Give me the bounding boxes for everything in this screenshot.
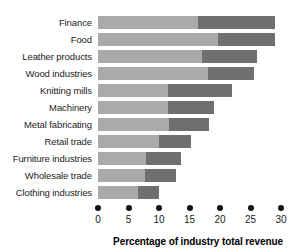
tick-dot-icon	[95, 205, 101, 211]
x-axis-tick: 30	[268, 205, 294, 225]
stacked-bar	[98, 67, 254, 80]
bar-segment-1	[98, 101, 168, 114]
stacked-bar-chart: FinanceFoodLeather productsWood industri…	[0, 0, 306, 252]
tick-label: 5	[116, 214, 142, 225]
category-label: Wood industries	[0, 68, 92, 79]
chart-plot-area: FinanceFoodLeather productsWood industri…	[0, 14, 306, 201]
bar-segment-2	[145, 169, 176, 182]
chart-row: Metal fabricating	[0, 116, 306, 133]
bar-segment-1	[98, 152, 146, 165]
bar-segment-1	[98, 33, 218, 46]
category-label: Knitting mills	[0, 85, 92, 96]
tick-dot-icon	[187, 205, 193, 211]
category-label: Food	[0, 34, 92, 45]
category-label: Furniture industries	[0, 153, 92, 164]
bar-segment-1	[98, 50, 202, 63]
stacked-bar	[98, 33, 275, 46]
bar-segment-2	[138, 186, 159, 199]
bar-segment-1	[98, 16, 198, 29]
category-label: Retail trade	[0, 136, 92, 147]
tick-label: 30	[268, 214, 294, 225]
bar-segment-1	[98, 118, 169, 131]
tick-dot-icon	[278, 205, 284, 211]
x-axis-tick: 15	[177, 205, 203, 225]
bar-segment-1	[98, 67, 208, 80]
chart-row: Finance	[0, 14, 306, 31]
category-label: Clothing industries	[0, 187, 92, 198]
tick-label: 0	[85, 214, 111, 225]
x-axis-tick: 20	[207, 205, 233, 225]
tick-label: 10	[146, 214, 172, 225]
stacked-bar	[98, 135, 191, 148]
stacked-bar	[98, 16, 275, 29]
category-label: Metal fabricating	[0, 119, 92, 130]
category-label: Leather products	[0, 51, 92, 62]
stacked-bar	[98, 152, 181, 165]
category-label: Wholesale trade	[0, 170, 92, 181]
stacked-bar	[98, 169, 176, 182]
bar-segment-2	[169, 118, 209, 131]
x-axis-tick: 0	[85, 205, 111, 225]
tick-label: 15	[177, 214, 203, 225]
stacked-bar	[98, 118, 209, 131]
bar-segment-1	[98, 84, 168, 97]
bar-segment-1	[98, 135, 159, 148]
bar-segment-2	[159, 135, 191, 148]
chart-row: Leather products	[0, 48, 306, 65]
category-label: Finance	[0, 17, 92, 28]
chart-row: Wood industries	[0, 65, 306, 82]
bar-segment-2	[168, 101, 214, 114]
x-axis-tick: 25	[238, 205, 264, 225]
bar-segment-1	[98, 186, 138, 199]
chart-row: Clothing industries	[0, 184, 306, 201]
chart-row: Machinery	[0, 99, 306, 116]
bar-segment-2	[198, 16, 275, 29]
bar-segment-1	[98, 169, 145, 182]
chart-row: Furniture industries	[0, 150, 306, 167]
tick-dot-icon	[248, 205, 254, 211]
tick-label: 20	[207, 214, 233, 225]
bar-segment-2	[208, 67, 254, 80]
stacked-bar	[98, 101, 214, 114]
bar-segment-2	[218, 33, 275, 46]
stacked-bar	[98, 186, 159, 199]
x-axis-tick: 10	[146, 205, 172, 225]
x-axis-tick: 5	[116, 205, 142, 225]
bar-segment-2	[202, 50, 257, 63]
chart-row: Wholesale trade	[0, 167, 306, 184]
tick-dot-icon	[156, 205, 162, 211]
x-axis-title: Percentage of industry total revenue	[98, 236, 298, 247]
chart-row: Knitting mills	[0, 82, 306, 99]
tick-dot-icon	[217, 205, 223, 211]
stacked-bar	[98, 50, 257, 63]
stacked-bar	[98, 84, 232, 97]
tick-dot-icon	[126, 205, 132, 211]
x-axis: Percentage of industry total revenue 051…	[0, 205, 306, 252]
chart-row: Food	[0, 31, 306, 48]
chart-row: Retail trade	[0, 133, 306, 150]
category-label: Machinery	[0, 102, 92, 113]
bar-segment-2	[146, 152, 181, 165]
bar-segment-2	[168, 84, 232, 97]
tick-label: 25	[238, 214, 264, 225]
